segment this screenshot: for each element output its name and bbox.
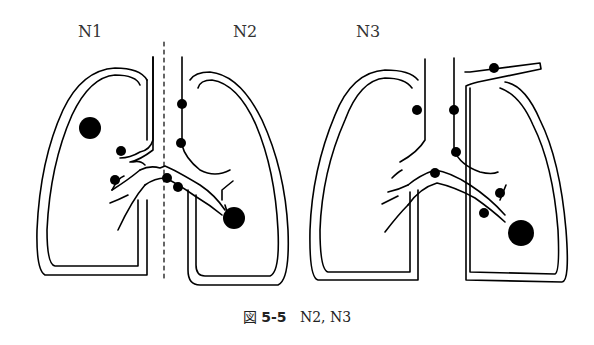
lymph-nodes-n3	[412, 63, 534, 246]
figure-caption: 図 5-5 N2, N3	[0, 306, 594, 326]
caption-prefix: 図	[243, 309, 257, 325]
lung-diagrams	[0, 0, 594, 300]
label-n2: N2	[233, 22, 257, 41]
label-n1: N1	[78, 22, 102, 41]
caption-text: N2, N3	[300, 309, 351, 325]
lymph-nodes-n1-n2	[79, 99, 245, 229]
caption-number: 5-5	[261, 309, 286, 325]
lung-diagram-n1-n2	[37, 42, 288, 285]
label-n3: N3	[356, 22, 380, 41]
